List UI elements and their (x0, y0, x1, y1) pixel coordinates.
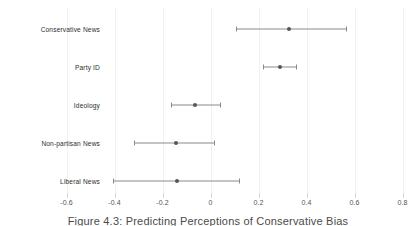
ci-upper-cap (214, 141, 215, 146)
ci-lower-cap (263, 65, 264, 70)
x-axis-tick-label: 0.4 (301, 199, 311, 206)
x-axis-tickmark (307, 193, 308, 198)
x-axis-tickmark (403, 193, 404, 198)
x-axis-tickmark (115, 193, 116, 198)
figure-caption: Figure 4.3: Predicting Perceptions of Co… (0, 215, 416, 226)
y-axis-category-labels: Conservative NewsParty IDIdeologyNon-par… (0, 0, 100, 226)
x-axis-tick-label: 0 (209, 199, 213, 206)
ci-lower-cap (134, 141, 135, 146)
y-axis-category-label: Non-partisan News (41, 140, 100, 147)
ci-upper-cap (239, 179, 240, 184)
y-axis-category-label: Liberal News (60, 178, 100, 185)
ci-lower-cap (113, 179, 114, 184)
ci-lower-cap (236, 27, 237, 32)
estimate-point (193, 103, 197, 107)
figure-container: -0.6-0.4-0.200.20.40.60.8 Conservative N… (0, 0, 416, 226)
y-axis-category-label: Party ID (75, 64, 100, 71)
confidence-interval-line (236, 29, 346, 30)
ci-upper-cap (296, 65, 297, 70)
ci-upper-cap (346, 27, 347, 32)
x-axis-tickmark (259, 193, 260, 198)
y-axis-category-label: Ideology (74, 102, 100, 109)
x-axis-tickmark (211, 193, 212, 198)
x-axis-tick-label: -0.2 (156, 199, 168, 206)
estimate-point (175, 179, 179, 183)
ci-upper-cap (220, 103, 221, 108)
estimate-point (174, 141, 178, 145)
x-axis-tickmark (163, 193, 164, 198)
x-axis-tick-label: 0.6 (349, 199, 359, 206)
x-axis-tick-label: -0.4 (108, 199, 120, 206)
x-axis-tickmark (355, 193, 356, 198)
estimate-point (278, 65, 282, 69)
estimate-point (287, 27, 291, 31)
x-axis-tick-label: 0.8 (397, 199, 407, 206)
x-axis-tick-label: 0.2 (253, 199, 263, 206)
y-axis-category-label: Conservative News (41, 26, 100, 33)
ci-lower-cap (171, 103, 172, 108)
